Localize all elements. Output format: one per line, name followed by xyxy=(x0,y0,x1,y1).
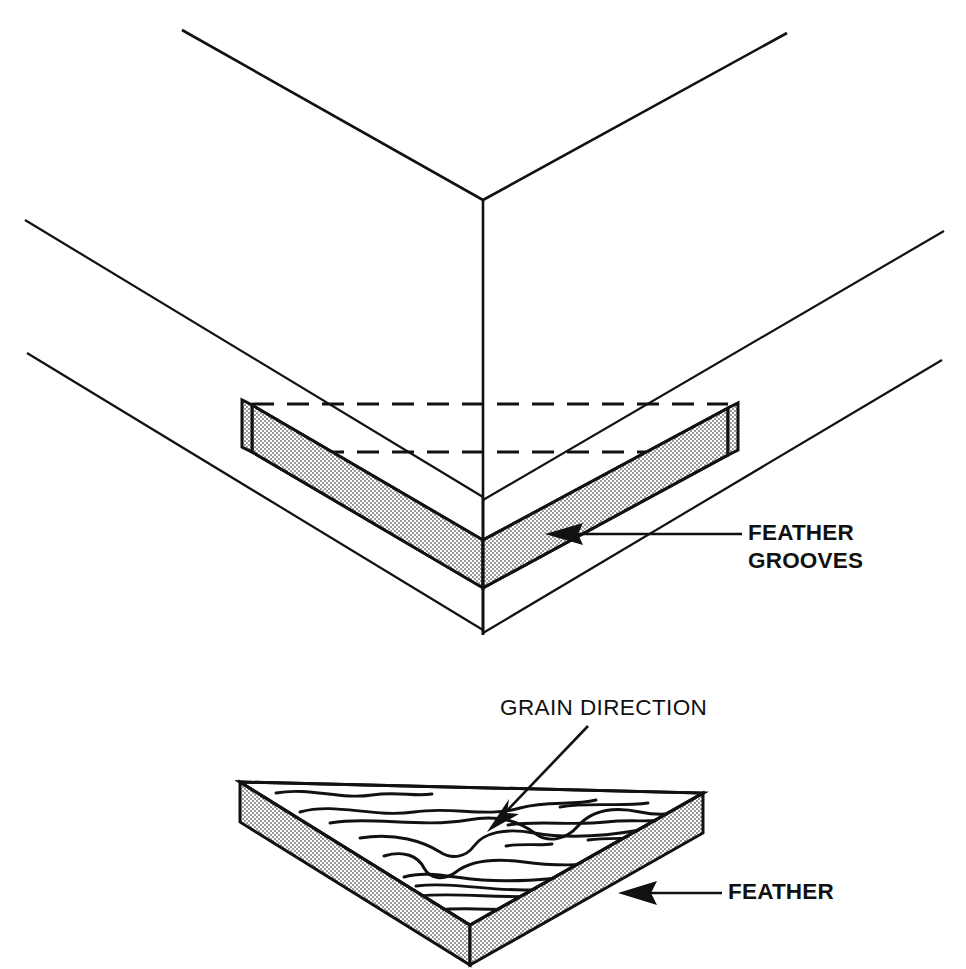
feather-left-end-cap xyxy=(242,400,252,452)
left-rail-lower-face-line xyxy=(27,353,483,630)
cropped-caption-sliver xyxy=(430,0,750,2)
top-surface-left-edge xyxy=(182,30,483,200)
feather-grooves-label-line1: FEATHER xyxy=(748,520,854,545)
feather-label: FEATHER xyxy=(728,879,834,904)
grain-direction-label: GRAIN DIRECTION xyxy=(500,695,707,720)
lower-diagram-feather-blank: GRAIN DIRECTION FEATHER xyxy=(240,695,834,965)
feather-right-end-cap xyxy=(728,403,738,455)
right-rail-lower-face-line xyxy=(483,360,942,633)
technical-illustration-figure: FEATHER GROOVES xyxy=(0,0,966,969)
feather-grooves-label-line2: GROOVES xyxy=(748,548,863,573)
upper-diagram-mitered-corner: FEATHER GROOVES xyxy=(25,30,944,635)
left-rail-upper-face-line xyxy=(25,220,483,497)
grain-line xyxy=(506,844,552,846)
top-surface-right-edge xyxy=(483,33,787,200)
figure-canvas: FEATHER GROOVES xyxy=(0,0,966,969)
